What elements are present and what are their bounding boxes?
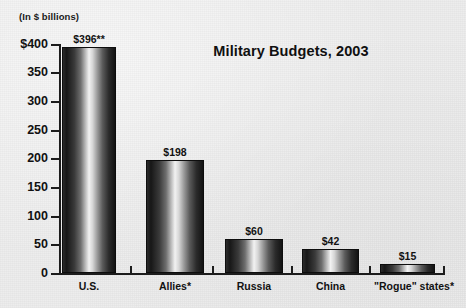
y-tick-label-350: 350 <box>0 65 48 79</box>
y-tick-mark <box>51 187 60 189</box>
y-tick-label-300: 300 <box>0 94 48 108</box>
category-label-rogue-states: "Rogue" states* <box>367 280 461 292</box>
y-tick-label-100: 100 <box>0 209 48 223</box>
x-tick-mark <box>130 266 132 275</box>
y-tick-label-150: 150 <box>0 180 48 194</box>
y-tick-mark <box>51 216 60 218</box>
x-tick-mark <box>212 266 214 275</box>
bar-china <box>302 249 359 273</box>
x-tick-mark <box>291 266 293 275</box>
bar-rogue-states <box>380 264 435 273</box>
bar-value-allies: $198 <box>145 146 205 158</box>
category-label-russia: Russia <box>224 280 284 292</box>
plot-area: $400 350 300 250 200 150 100 50 <box>0 0 466 308</box>
y-tick-mark <box>51 130 60 132</box>
y-tick-mark <box>51 244 60 246</box>
x-axis-line <box>59 273 445 275</box>
y-tick-label-250: 250 <box>0 123 48 137</box>
x-tick-mark <box>369 266 371 275</box>
military-budgets-chart: (In $ billions) Military Budgets, 2003 $… <box>0 0 466 308</box>
bar-allies <box>146 160 204 273</box>
bar-value-us: $396** <box>59 33 119 45</box>
category-label-us: U.S. <box>59 280 119 292</box>
category-label-china: China <box>301 280 360 292</box>
bar-value-russia: $60 <box>224 225 284 237</box>
bar-us <box>62 47 116 273</box>
y-tick-mark <box>51 72 60 74</box>
y-tick-mark <box>51 273 60 275</box>
y-tick-mark <box>51 101 60 103</box>
y-tick-label-0: 0 <box>0 266 48 280</box>
bar-russia <box>225 239 283 273</box>
y-tick-mark <box>51 158 60 160</box>
y-tick-label-200: 200 <box>0 151 48 165</box>
bar-value-rogue-states: $15 <box>378 250 437 262</box>
y-tick-label-400: $400 <box>0 37 48 51</box>
category-label-allies: Allies* <box>145 280 205 292</box>
bar-value-china: $42 <box>301 235 360 247</box>
x-tick-mark <box>443 266 445 275</box>
y-tick-label-50: 50 <box>0 237 48 251</box>
